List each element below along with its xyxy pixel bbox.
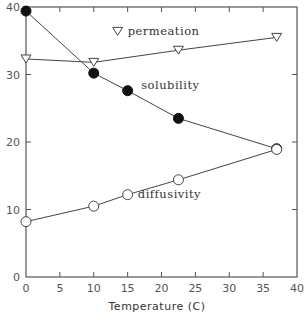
x-tick-label: 10 — [87, 282, 101, 295]
filled-circle-marker — [173, 113, 183, 123]
x-tick-label: 5 — [56, 282, 63, 295]
permeation-line — [26, 37, 277, 62]
x-tick-label: 35 — [256, 282, 270, 295]
x-tick-label: 25 — [188, 282, 202, 295]
series-permeation: permeation — [21, 24, 282, 66]
filled-circle-marker — [21, 6, 31, 16]
y-tick-label: 10 — [6, 204, 20, 217]
filled-circle-marker — [89, 68, 99, 78]
y-tick-label: 20 — [6, 136, 20, 149]
y-tick-label: 0 — [13, 271, 20, 284]
y-tick-label: 40 — [6, 1, 20, 14]
diffusivity-line — [26, 149, 277, 221]
x-tick-label: 20 — [155, 282, 169, 295]
solubility-label: solubility — [141, 78, 199, 92]
x-tick-label: 15 — [121, 282, 135, 295]
open-circle-marker — [272, 144, 282, 154]
diffusivity-label: diffusivity — [138, 187, 201, 201]
data-series: permeationsolubilitydiffusivity — [21, 6, 282, 227]
x-tick-label: 40 — [290, 282, 304, 295]
x-tick-label: 0 — [23, 282, 30, 295]
permeation-legend-triangle-icon — [113, 27, 123, 35]
filled-circle-marker — [123, 86, 133, 96]
open-circle-marker — [123, 190, 133, 200]
x-axis-title: Temperature (C) — [108, 300, 206, 313]
open-circle-marker — [89, 201, 99, 211]
y-tick-label: 30 — [6, 69, 20, 82]
permeation-label: permeation — [128, 24, 200, 38]
series-diffusivity: diffusivity — [21, 144, 282, 226]
x-tick-label: 30 — [222, 282, 236, 295]
open-circle-marker — [173, 175, 183, 185]
chart: 0510152025303540010203040 permeationsolu… — [0, 0, 305, 320]
open-circle-marker — [21, 217, 31, 227]
axis-ticks: 0510152025303540010203040 — [6, 1, 304, 295]
